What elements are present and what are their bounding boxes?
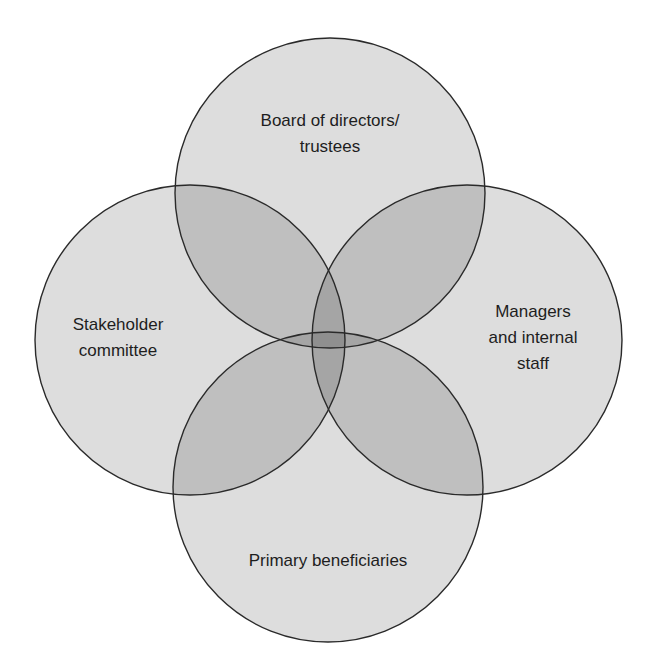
circle-beneficiaries-fill: [173, 332, 483, 642]
label-line: Primary beneficiaries: [249, 548, 408, 574]
label-line: committee: [73, 338, 164, 364]
label-line: staff: [489, 351, 578, 377]
label-line: Board of directors/: [261, 108, 400, 134]
label-board-of-directors: Board of directors/ trustees: [261, 108, 400, 160]
label-line: trustees: [261, 134, 400, 160]
label-line: Stakeholder: [73, 312, 164, 338]
label-line: and internal: [489, 325, 578, 351]
label-managers-and-staff: Managers and internal staff: [489, 299, 578, 377]
label-stakeholder-committee: Stakeholder committee: [73, 312, 164, 364]
label-primary-beneficiaries: Primary beneficiaries: [249, 548, 408, 574]
label-line: Managers: [489, 299, 578, 325]
